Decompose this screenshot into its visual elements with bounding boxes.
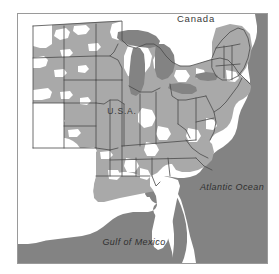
label-atlantic-ocean: Atlantic Ocean (199, 182, 264, 192)
label-usa: U.S.A. (107, 106, 136, 116)
map-canvas: Canada U.S.A. Atlantic Ocean Gulf of Mex… (0, 0, 279, 274)
label-canada: Canada (177, 13, 215, 24)
label-gulf-of-mexico: Gulf of Mexico (102, 237, 165, 247)
map-figure: Canada U.S.A. Atlantic Ocean Gulf of Mex… (0, 0, 279, 274)
